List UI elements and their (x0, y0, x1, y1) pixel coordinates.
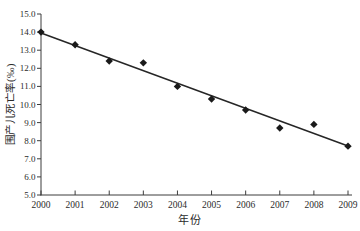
x-tick-label: 2004 (168, 200, 187, 210)
data-point-marker (276, 124, 283, 131)
x-axis-title: 年份 (178, 211, 202, 227)
x-tick-label: 2005 (202, 200, 221, 210)
x-tick-label: 2002 (100, 200, 119, 210)
perinatal-mortality-chart: 15.014.013.012.011.010.09.08.07.06.05.02… (0, 0, 360, 231)
y-tick-label: 15.0 (20, 9, 36, 19)
x-tick-label: 2009 (339, 200, 358, 210)
y-tick-label: 7.0 (24, 154, 36, 164)
x-tick-label: 2000 (32, 200, 51, 210)
data-point-marker (71, 41, 78, 48)
y-tick-label: 14.0 (20, 27, 36, 37)
x-tick-label: 2006 (236, 200, 255, 210)
y-tick-label: 5.0 (24, 190, 36, 200)
y-tick-label: 12.0 (20, 63, 36, 73)
x-tick-label: 2007 (270, 200, 289, 210)
trend-line (41, 33, 348, 146)
x-tick-label: 2003 (134, 200, 153, 210)
y-tick-label: 9.0 (24, 118, 36, 128)
y-tick-label: 8.0 (24, 136, 36, 146)
y-tick-label: 13.0 (20, 45, 36, 55)
plot-area: 15.014.013.012.011.010.09.08.07.06.05.02… (0, 0, 360, 231)
x-tick-label: 2008 (304, 200, 323, 210)
x-tick-label: 2001 (66, 200, 85, 210)
y-tick-label: 11.0 (20, 81, 36, 91)
y-tick-label: 6.0 (24, 172, 36, 182)
data-point-marker (310, 121, 317, 128)
y-tick-label: 10.0 (20, 100, 36, 110)
y-axis-title: 围产儿死亡率(‰) (2, 63, 17, 145)
data-point-marker (344, 142, 351, 149)
data-point-marker (140, 59, 147, 66)
